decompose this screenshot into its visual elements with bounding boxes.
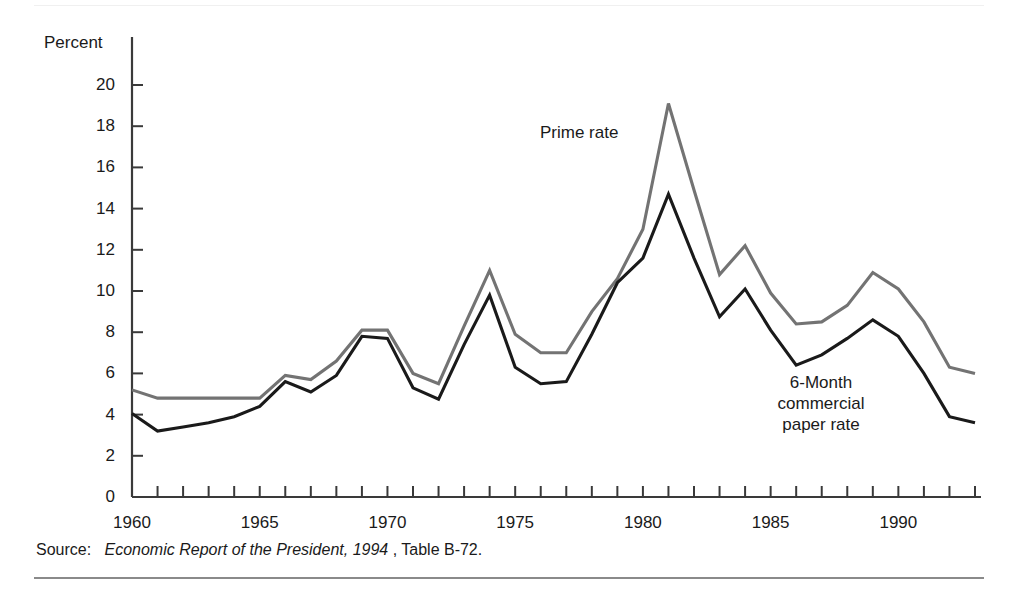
y-tick-label: 8 <box>75 323 115 340</box>
x-tick-label: 1990 <box>868 514 928 531</box>
y-tick-label: 20 <box>75 76 115 93</box>
source-note-tail: , Table B-72. <box>393 541 483 558</box>
y-tick-label: 18 <box>75 117 115 134</box>
x-tick-label: 1960 <box>102 514 162 531</box>
source-note: Source: Economic Report of the President… <box>36 540 482 560</box>
line-chart-plot <box>0 0 1016 596</box>
series-label-prime-rate: Prime rate <box>540 122 618 143</box>
y-tick-label: 10 <box>75 282 115 299</box>
y-tick-label: 14 <box>75 200 115 217</box>
source-note-label: Source: <box>36 541 91 558</box>
series-label-commercial-paper-rate: 6-Monthcommercialpaper rate <box>746 372 896 435</box>
x-tick-label: 1965 <box>230 514 290 531</box>
x-tick-label: 1975 <box>485 514 545 531</box>
x-tick-label: 1970 <box>357 514 417 531</box>
source-note-publication: Economic Report of the President, 1994 <box>105 541 389 558</box>
x-tick-label: 1980 <box>613 514 673 531</box>
figure-bottom-rule <box>34 577 984 579</box>
x-tick-label: 1985 <box>741 514 801 531</box>
y-tick-label: 4 <box>75 406 115 423</box>
y-tick-label: 12 <box>75 241 115 258</box>
y-tick-label: 16 <box>75 158 115 175</box>
chart-tick-marks <box>132 85 975 497</box>
y-tick-label: 0 <box>75 488 115 505</box>
y-tick-label: 2 <box>75 447 115 464</box>
y-tick-label: 6 <box>75 364 115 381</box>
series-line <box>132 104 975 399</box>
figure-container: Percent 02468101214161820 19601965197019… <box>0 0 1016 596</box>
